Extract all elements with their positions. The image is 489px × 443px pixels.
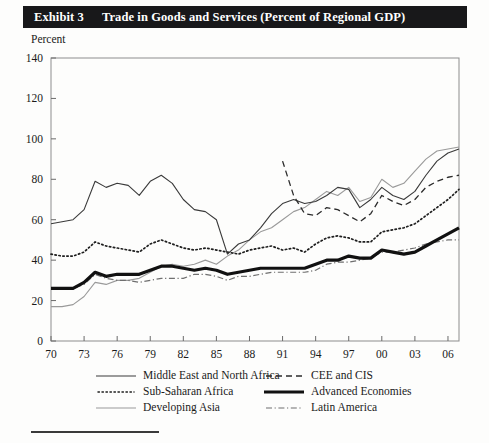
legend-swatch-dashed xyxy=(264,371,304,381)
x-axis-tick-label: 97 xyxy=(343,348,355,360)
x-axis-tick-label: 00 xyxy=(376,348,388,360)
legend-label: Latin America xyxy=(311,402,377,414)
legend-item-advanced-economies: Advanced Economies xyxy=(264,386,464,398)
x-axis-tick-label: 03 xyxy=(409,348,421,360)
legend-swatch-dash-dot xyxy=(264,403,304,413)
y-axis-tick-label: 60 xyxy=(32,214,44,226)
x-axis-tick-label: 70 xyxy=(45,348,57,360)
series-line-latin-america xyxy=(51,240,459,289)
x-axis-tick-label: 88 xyxy=(244,348,256,360)
x-axis-tick-label: 73 xyxy=(78,348,90,360)
plot-frame xyxy=(51,58,459,341)
x-axis-tick-label: 91 xyxy=(277,348,289,360)
chart-legend: Middle East and North Africa CEE and CIS… xyxy=(96,368,466,416)
legend-label: Advanced Economies xyxy=(311,386,412,398)
legend-swatch-solid-light xyxy=(96,403,136,413)
x-axis-tick-label: 85 xyxy=(211,348,223,360)
x-axis-tick-label: 76 xyxy=(111,348,123,360)
series-line-cee-and-cis xyxy=(283,161,459,222)
series-line-developing-asia xyxy=(51,147,459,307)
x-axis-tick-label: 82 xyxy=(178,348,190,360)
series-line-middle-east-and-north-africa xyxy=(51,149,459,254)
legend-label: Middle East and North Africa xyxy=(143,370,280,382)
y-axis-tick-label: 0 xyxy=(37,335,43,347)
legend-item-cee-and-cis: CEE and CIS xyxy=(264,370,464,382)
y-axis-tick-label: 120 xyxy=(26,92,44,104)
y-axis-tick-label: 140 xyxy=(26,52,44,64)
footer-rule xyxy=(31,431,159,433)
legend-swatch-solid-thin xyxy=(96,371,136,381)
y-axis-tick-label: 100 xyxy=(26,133,44,145)
y-axis-tick-label: 20 xyxy=(32,295,44,307)
legend-swatch-dotted xyxy=(96,387,136,397)
legend-label: Sub-Saharan Africa xyxy=(143,386,233,398)
x-axis-tick-label: 94 xyxy=(310,348,322,360)
legend-item-developing-asia: Developing Asia xyxy=(96,402,264,414)
series-line-sub-saharan-africa xyxy=(51,189,459,256)
y-axis-tick-label: 40 xyxy=(32,254,44,266)
y-axis-tick-label: 80 xyxy=(32,173,44,185)
legend-item-middle-east-and-north-africa: Middle East and North Africa xyxy=(96,370,264,382)
x-axis-tick-label: 79 xyxy=(144,348,156,360)
legend-swatch-solid-thick xyxy=(264,387,304,397)
legend-item-sub-saharan-africa: Sub-Saharan Africa xyxy=(96,386,264,398)
legend-label: CEE and CIS xyxy=(311,370,373,382)
legend-label: Developing Asia xyxy=(143,402,220,414)
x-axis-tick-label: 06 xyxy=(442,348,454,360)
exhibit-container: Exhibit 3 Trade in Goods and Services (P… xyxy=(0,0,489,443)
legend-item-latin-america: Latin America xyxy=(264,402,464,414)
